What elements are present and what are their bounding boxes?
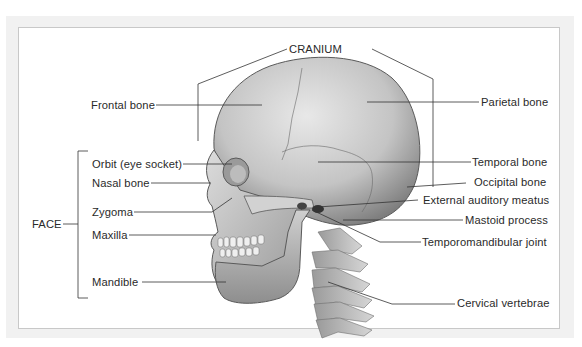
label-occipital-bone: Occipital bone <box>474 176 546 189</box>
label-mandible: Mandible <box>92 276 138 289</box>
label-external-auditory-meatus: External auditory meatus <box>423 194 549 207</box>
group-label-cranium: CRANIUM <box>289 43 342 56</box>
label-maxilla: Maxilla <box>92 229 128 242</box>
cervical-vertebrae-shape <box>312 228 374 338</box>
label-orbit: Orbit (eye socket) <box>92 158 182 171</box>
group-label-face: FACE <box>32 218 62 231</box>
label-cervical-vertebrae: Cervical vertebrae <box>457 297 550 310</box>
label-temporal-bone: Temporal bone <box>472 156 547 169</box>
label-nasal-bone: Nasal bone <box>92 177 150 190</box>
label-parietal-bone: Parietal bone <box>481 96 548 109</box>
label-temporomandibular-joint: Temporomandibular joint <box>422 236 547 249</box>
label-frontal-bone: Frontal bone <box>91 99 155 112</box>
label-mastoid-process: Mastoid process <box>465 214 548 227</box>
label-zygoma: Zygoma <box>92 206 133 219</box>
